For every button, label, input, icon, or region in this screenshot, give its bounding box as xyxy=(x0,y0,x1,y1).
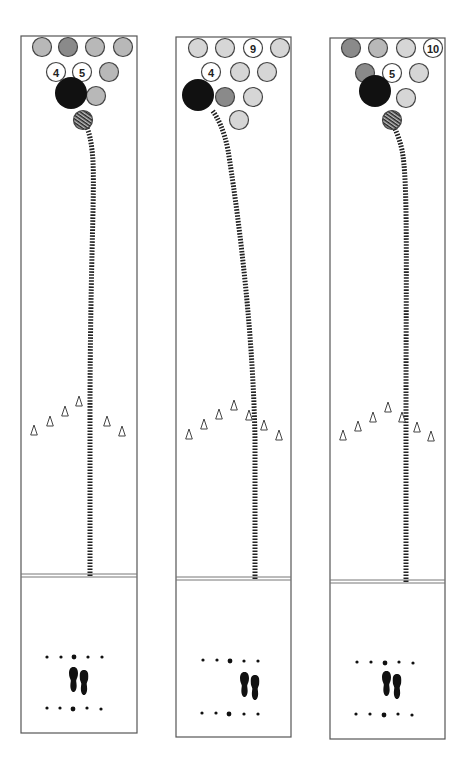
pin-circle xyxy=(397,89,416,108)
approach-dot xyxy=(354,712,357,715)
pin xyxy=(87,87,106,106)
pin-circle xyxy=(59,38,78,57)
pin-9: 9 xyxy=(244,39,263,58)
bowling-diagram: 4594105 xyxy=(0,0,461,775)
approach-dot xyxy=(99,707,102,710)
approach-dot xyxy=(85,706,88,709)
lane-outline xyxy=(330,38,445,739)
pin xyxy=(271,39,290,58)
approach-dot xyxy=(256,659,259,662)
approach-dot xyxy=(72,655,77,660)
approach-dot xyxy=(71,707,76,712)
pin xyxy=(33,38,52,57)
pin xyxy=(397,39,416,58)
pin xyxy=(74,111,93,130)
pin xyxy=(383,111,402,130)
bowling-ball-icon xyxy=(182,79,214,111)
pin-circle xyxy=(271,39,290,58)
pin-circle xyxy=(342,39,361,58)
pin xyxy=(258,63,277,82)
pin xyxy=(216,88,235,107)
pin xyxy=(410,64,429,83)
approach-dot xyxy=(100,655,103,658)
pin xyxy=(189,39,208,58)
pin xyxy=(397,89,416,108)
approach-dot xyxy=(45,706,48,709)
pin xyxy=(369,39,388,58)
lane-1: 45 xyxy=(21,36,137,733)
pin-circle xyxy=(383,111,402,130)
pin-number: 4 xyxy=(53,67,60,79)
pin-4: 4 xyxy=(47,63,66,82)
pin xyxy=(100,63,119,82)
pin xyxy=(86,38,105,57)
pin-4: 4 xyxy=(202,63,221,82)
pin xyxy=(342,39,361,58)
pin-circle xyxy=(87,87,106,106)
approach-dot xyxy=(256,712,259,715)
pin-circle xyxy=(86,38,105,57)
pin-circle xyxy=(114,38,133,57)
lane-2: 94 xyxy=(176,37,291,737)
pin xyxy=(114,38,133,57)
approach-dot xyxy=(58,706,61,709)
approach-dot xyxy=(242,659,245,662)
pin-circle xyxy=(410,64,429,83)
approach-dot xyxy=(382,713,387,718)
approach-dot xyxy=(227,712,232,717)
approach-dot xyxy=(355,660,358,663)
lane-outline xyxy=(21,36,137,733)
lanes-layer: 4594105 xyxy=(21,36,445,739)
pin xyxy=(231,63,250,82)
pin-number: 9 xyxy=(250,43,256,55)
bowling-ball-icon xyxy=(359,75,391,107)
pin xyxy=(59,38,78,57)
pin-circle xyxy=(216,88,235,107)
pin-circle xyxy=(231,63,250,82)
pin-number: 4 xyxy=(208,67,215,79)
approach-dot xyxy=(215,658,218,661)
approach-dot xyxy=(228,659,233,664)
pin-circle xyxy=(230,111,249,130)
pin-circle xyxy=(189,39,208,58)
pin-circle xyxy=(216,39,235,58)
pin-circle xyxy=(397,39,416,58)
approach-dot xyxy=(368,712,371,715)
pin-number: 10 xyxy=(427,43,439,55)
approach-dot xyxy=(369,660,372,663)
pin-circle xyxy=(100,63,119,82)
approach-dot xyxy=(45,655,48,658)
lane-outline xyxy=(176,37,291,737)
approach-dot xyxy=(201,658,204,661)
pin-number: 5 xyxy=(389,68,395,80)
approach-dot xyxy=(411,661,414,664)
approach-dot xyxy=(397,660,400,663)
pin xyxy=(230,111,249,130)
approach-dot xyxy=(59,655,62,658)
approach-dot xyxy=(242,712,245,715)
bowling-ball-icon xyxy=(55,77,87,109)
pin-10: 10 xyxy=(424,39,443,58)
approach-dot xyxy=(214,711,217,714)
pin xyxy=(244,88,263,107)
approach-dot xyxy=(86,655,89,658)
pin-circle xyxy=(74,111,93,130)
approach-dot xyxy=(383,661,388,666)
pin-circle xyxy=(369,39,388,58)
approach-dot xyxy=(396,712,399,715)
pin-circle xyxy=(33,38,52,57)
approach-dot xyxy=(410,713,413,716)
approach-dot xyxy=(200,711,203,714)
pin-circle xyxy=(244,88,263,107)
pin-number: 5 xyxy=(79,67,85,79)
pin xyxy=(216,39,235,58)
lane-3: 105 xyxy=(330,38,445,739)
pin-circle xyxy=(258,63,277,82)
